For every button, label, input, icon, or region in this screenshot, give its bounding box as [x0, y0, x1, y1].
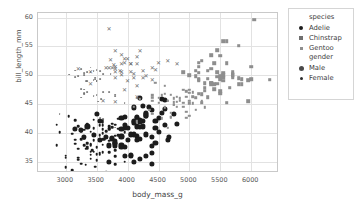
legend-marker-icon [293, 47, 309, 50]
legend-item-chinstrap[interactable]: Chinstrap [293, 33, 350, 43]
data-point [93, 70, 95, 72]
data-point [188, 115, 190, 117]
data-point [219, 92, 223, 96]
data-point [102, 144, 105, 147]
data-point [89, 143, 92, 146]
legend-item-female[interactable]: Female [293, 73, 350, 83]
data-point [203, 81, 207, 85]
data-point [253, 18, 257, 22]
data-point [68, 74, 70, 76]
data-point [74, 138, 77, 141]
data-point [206, 95, 210, 99]
data-point [86, 141, 89, 144]
data-point [86, 91, 88, 93]
data-point [150, 135, 155, 140]
data-point [163, 106, 165, 108]
data-point: ✕ [165, 58, 171, 64]
plot-area: ✕✕✕✕✕✕✕✕✕✕✕✕✕✕✕✕✕✕✕✕✕✕✕✕✕✕✕✕✕✕✕✕✕✕✕✕✕✕✕✕… [37, 12, 278, 172]
data-point [58, 131, 61, 134]
data-point [122, 144, 127, 149]
data-point [89, 153, 92, 156]
data-point [197, 92, 201, 96]
data-point [268, 78, 272, 82]
legend-item-male[interactable]: Male [293, 63, 350, 73]
y-tick-label: 45 [25, 99, 33, 107]
data-point [93, 79, 95, 81]
data-point [174, 122, 179, 127]
data-point [111, 126, 114, 129]
data-point [185, 90, 187, 92]
data-point [96, 69, 98, 71]
data-point [182, 88, 184, 90]
data-point [188, 102, 190, 104]
legend-item-gentoo[interactable]: Gentoo [293, 43, 350, 53]
data-point [204, 106, 206, 108]
data-point [108, 151, 111, 154]
data-point [157, 102, 159, 104]
data-point [114, 155, 117, 158]
data-point [170, 111, 172, 113]
data-point: ✕ [106, 26, 112, 32]
data-point [156, 129, 161, 134]
data-point [151, 100, 153, 102]
data-point [165, 137, 170, 142]
data-point [114, 127, 116, 129]
data-point [150, 161, 155, 166]
legend-group-title: gender [309, 53, 350, 62]
data-point [151, 96, 153, 98]
data-point [194, 108, 196, 110]
data-point [71, 133, 74, 136]
data-point [215, 82, 219, 86]
data-point [108, 144, 111, 147]
data-point [74, 142, 77, 145]
data-point [55, 144, 58, 147]
legend-item-adelie[interactable]: Adelie [293, 23, 350, 33]
data-point [92, 139, 95, 142]
legend-group-title: species [309, 13, 350, 22]
legend: speciesAdelieChinstrapGentoogenderMaleFe… [288, 8, 354, 100]
data-point [170, 116, 172, 118]
data-point [68, 115, 71, 118]
data-point [95, 159, 98, 162]
x-tick-label: 6000 [242, 176, 259, 184]
data-point [191, 102, 193, 104]
data-point: ✕ [174, 61, 180, 67]
data-point [209, 67, 213, 71]
data-point [197, 65, 201, 69]
data-point [122, 153, 127, 158]
data-point [95, 146, 98, 149]
data-point [179, 97, 181, 99]
data-point [65, 156, 68, 159]
data-point [80, 68, 82, 70]
data-point [212, 87, 216, 91]
y-tick-label: 55 [25, 41, 33, 49]
legend-marker-icon [293, 77, 309, 80]
data-point [83, 129, 86, 132]
data-point [191, 91, 193, 93]
data-point [95, 153, 98, 156]
data-point [137, 124, 142, 129]
data-point [71, 169, 74, 171]
data-point: ✕ [122, 60, 128, 66]
data-point [150, 150, 155, 155]
data-point [105, 130, 108, 133]
legend-label: Chinstrap [309, 34, 342, 43]
data-point [77, 159, 80, 162]
data-point [77, 75, 79, 77]
data-point: ✕ [134, 61, 140, 67]
x-axis-title: body_mass_g [37, 190, 278, 199]
data-point [131, 159, 136, 164]
data-point [108, 140, 111, 143]
data-point [225, 61, 229, 65]
data-point [231, 71, 235, 75]
data-point [108, 91, 110, 93]
data-point [102, 124, 105, 127]
data-point [246, 99, 250, 103]
data-point [181, 71, 185, 75]
data-point [185, 96, 187, 98]
data-point [117, 118, 120, 121]
data-point [83, 92, 85, 94]
data-point [137, 157, 142, 162]
data-point [141, 104, 146, 109]
data-point [249, 77, 253, 81]
